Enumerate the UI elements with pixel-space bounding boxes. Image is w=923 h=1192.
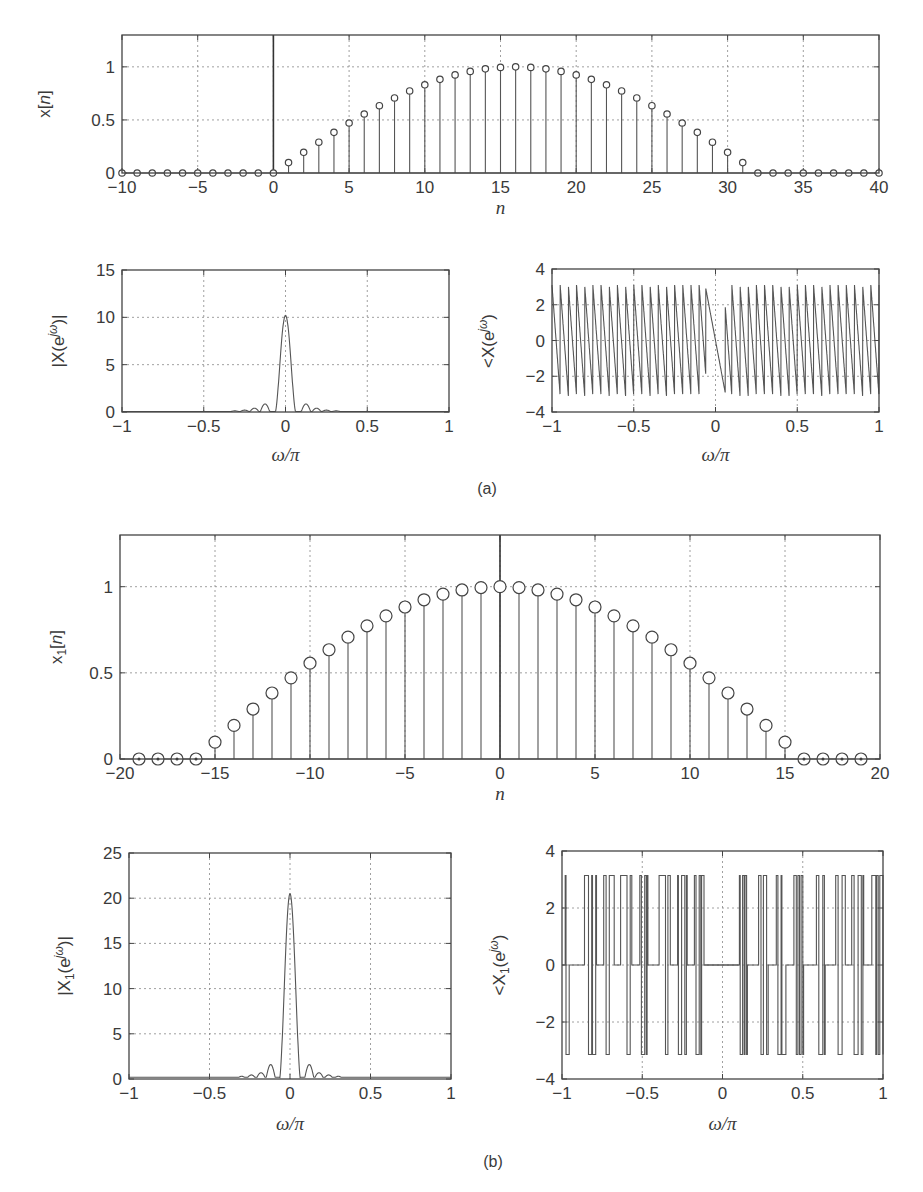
- y-axis-label: |X(ejω)|: [46, 315, 68, 368]
- stem-marker: [512, 64, 518, 70]
- y-tick-label: −2: [536, 1013, 555, 1032]
- y-tick-label: 0: [106, 164, 115, 183]
- stem-marker: [209, 736, 221, 748]
- y-tick-label: 0.5: [91, 111, 115, 130]
- y-tick-label: 0: [106, 403, 115, 422]
- y-tick-label: 4: [546, 842, 555, 861]
- stem-marker: [342, 631, 354, 643]
- y-tick-label: 1: [104, 578, 113, 597]
- x-tick-label: 35: [794, 178, 813, 197]
- x-tick-label: −1: [112, 417, 131, 436]
- y-tick-label: 1: [106, 58, 115, 77]
- stem-marker: [513, 582, 525, 594]
- caption-b: (b): [483, 1153, 503, 1170]
- x-tick-label: −5: [395, 764, 414, 783]
- x-tick-label: −10: [296, 764, 325, 783]
- y-tick-label: 15: [103, 934, 122, 953]
- plot-a-time-signal: −10−5051015202530354000.51nx[n]: [35, 35, 888, 218]
- stem-marker: [709, 139, 715, 145]
- stem-marker: [528, 64, 534, 70]
- tick-labels: −1−0.500.51051015: [96, 261, 454, 436]
- stem-marker: [228, 719, 240, 731]
- x-tick-label: 1: [874, 417, 883, 436]
- stem-marker: [300, 149, 306, 155]
- tick-labels: −20−15−10−50510152000.51: [89, 535, 889, 783]
- stem-marker: [247, 703, 259, 715]
- stem-marker: [467, 68, 473, 74]
- x-axis-label: ω/π: [271, 444, 300, 465]
- y-axis-label: x1[n]: [47, 630, 69, 664]
- plot-frame: [129, 853, 451, 1079]
- stem-marker: [646, 631, 658, 643]
- stem-marker: [497, 64, 503, 70]
- stem-marker: [741, 703, 753, 715]
- stem-marker: [684, 657, 696, 669]
- stem-marker: [361, 111, 367, 117]
- x-tick-label: −5: [188, 178, 207, 197]
- y-tick-label: 4: [536, 260, 545, 279]
- stem-marker: [664, 111, 670, 117]
- stem-marker: [323, 644, 335, 656]
- y-axis-label: <X(ejω): [476, 314, 498, 368]
- caption-a: (a): [477, 480, 497, 497]
- x-tick-label: 20: [871, 764, 890, 783]
- y-tick-label: −4: [526, 403, 545, 422]
- stem-marker: [437, 76, 443, 82]
- x-tick-label: 0: [711, 417, 720, 436]
- stem-marker: [740, 159, 746, 165]
- stem-marker: [618, 88, 624, 94]
- stem-marker: [588, 76, 594, 82]
- stem-marker: [266, 687, 278, 699]
- x-tick-label: 10: [415, 178, 434, 197]
- stem-marker: [551, 588, 563, 600]
- tick-labels: −1−0.500.510510152025: [103, 844, 456, 1103]
- plot-b-time-signal: −20−15−10−50510152000.51nx1[n]: [47, 535, 889, 804]
- grid-lines: [129, 853, 451, 1079]
- y-axis-label: |X1(ejω)|: [52, 936, 77, 996]
- stem-marker: [608, 610, 620, 622]
- stem-marker: [627, 620, 639, 632]
- x-axis-label: n: [495, 783, 505, 804]
- plot-a-magnitude: −1−0.500.51051015ω/π|X(ejω)|: [46, 261, 454, 465]
- stem-marker: [532, 584, 544, 596]
- stem-marker: [331, 129, 337, 135]
- x-tick-label: 25: [642, 178, 661, 197]
- stem-marker: [760, 719, 772, 731]
- y-tick-label: 0.5: [89, 664, 113, 683]
- y-tick-label: 20: [103, 889, 122, 908]
- stem-marker: [361, 620, 373, 632]
- stem-marker: [589, 601, 601, 613]
- stem-marker: [380, 610, 392, 622]
- x-tick-label: −15: [201, 764, 230, 783]
- stem-marker: [456, 584, 468, 596]
- stem-marker: [543, 66, 549, 72]
- x-tick-label: 0.5: [791, 1084, 815, 1103]
- stem-marker: [452, 72, 458, 78]
- y-tick-label: 0: [546, 956, 555, 975]
- y-tick-label: 2: [536, 296, 545, 315]
- stem-marker: [285, 159, 291, 165]
- x-tick-label: 15: [491, 178, 510, 197]
- plot-b-magnitude: −1−0.500.510510152025ω/π|X1(ejω)|: [52, 844, 456, 1134]
- stem-marker: [603, 82, 609, 88]
- x-tick-label: 1: [446, 1084, 455, 1103]
- y-tick-label: 0: [113, 1070, 122, 1089]
- x-tick-label: 0.5: [355, 417, 379, 436]
- x-tick-label: 20: [567, 178, 586, 197]
- stem-marker: [399, 601, 411, 613]
- x-axis-label: ω/π: [708, 1113, 737, 1134]
- stem-marker: [570, 594, 582, 606]
- stem-marker: [779, 736, 791, 748]
- x-tick-label: 40: [870, 178, 889, 197]
- y-tick-label: 5: [113, 1025, 122, 1044]
- y-tick-label: −2: [526, 367, 545, 386]
- y-tick-label: −4: [536, 1070, 555, 1089]
- x-tick-label: −1: [542, 417, 561, 436]
- stem-marker: [573, 72, 579, 78]
- x-tick-label: 0: [718, 1084, 727, 1103]
- grid-lines: [122, 270, 449, 412]
- x-tick-label: 0: [285, 1084, 294, 1103]
- x-tick-label: 5: [590, 764, 599, 783]
- x-tick-label: 0: [269, 178, 278, 197]
- y-axis-label: x[n]: [35, 90, 54, 117]
